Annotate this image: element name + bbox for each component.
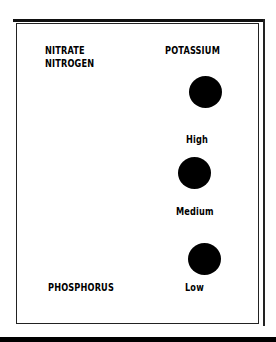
phosphorus-label: PHOSPHORUS: [48, 281, 114, 294]
test-result-dot-1: [189, 76, 222, 108]
level-medium-label: Medium: [176, 205, 214, 218]
nitrate-label-line1: NITRATE: [45, 44, 94, 57]
nitrate-nitrogen-label: NITRATE NITROGEN: [45, 44, 94, 70]
level-high-label: High: [186, 133, 208, 146]
nitrate-label-line2: NITROGEN: [45, 57, 94, 70]
bottom-border-bar: [0, 337, 276, 342]
top-border-rule: [13, 19, 264, 22]
right-border-rule: [263, 19, 265, 326]
level-low-label: Low: [185, 281, 204, 294]
test-result-dot-2: [178, 157, 211, 189]
test-result-dot-3: [188, 243, 221, 275]
potassium-label: POTASSIUM: [165, 44, 220, 57]
